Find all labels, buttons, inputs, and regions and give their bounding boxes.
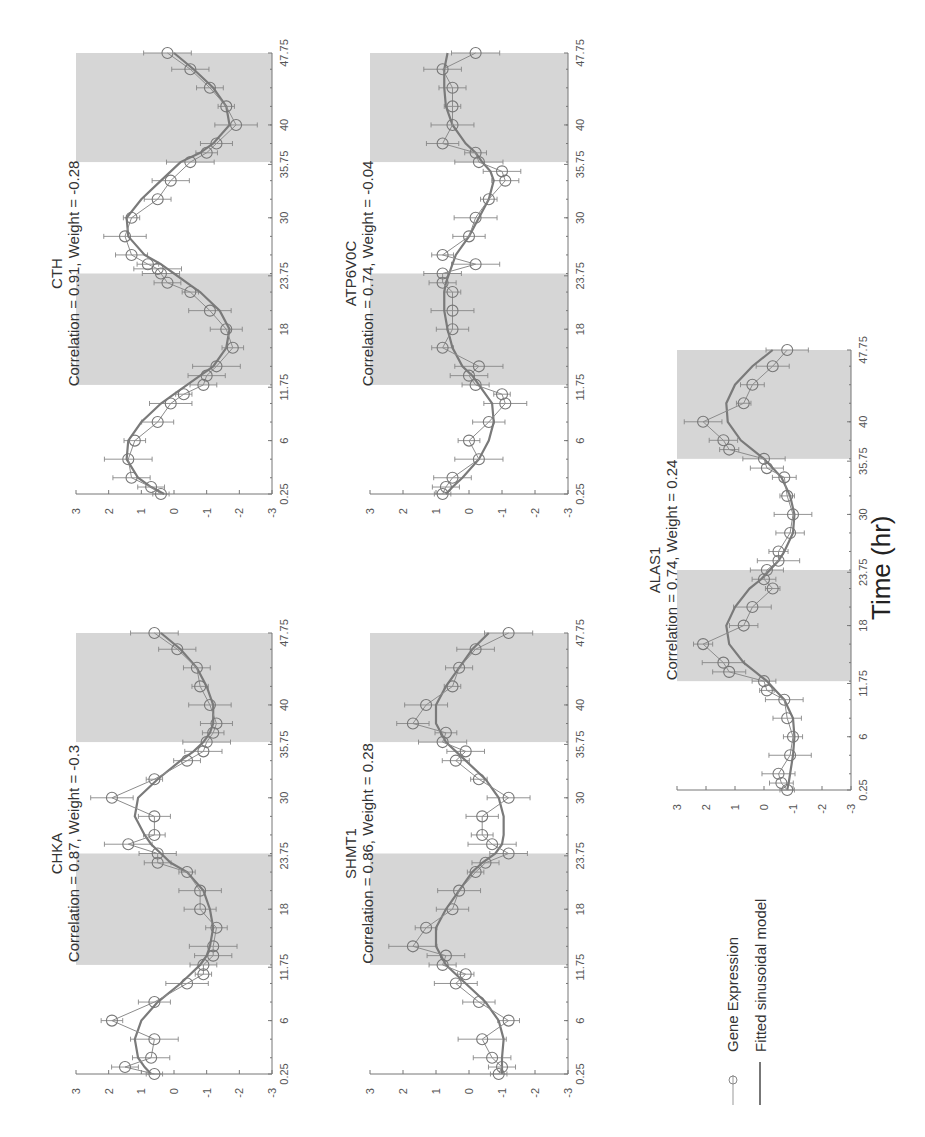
time-tick-label: 18 (857, 619, 869, 631)
value-tick-label: 1 (430, 1088, 442, 1094)
value-tick-label: -2 (816, 804, 828, 814)
dark-period-shade (76, 854, 272, 965)
x-axis-label: Time (hr) (866, 516, 896, 620)
panel-subtitle: Correlation = 0.74, Weight = 0.24 (663, 460, 680, 681)
value-tick-label: 1 (729, 804, 741, 810)
value-tick-label: 2 (103, 1088, 115, 1094)
value-tick-label: -3 (845, 804, 857, 814)
value-tick-label: 1 (430, 508, 442, 514)
value-tick-label: -1 (201, 1088, 213, 1098)
panel-shmt1: 3210-1-2-30.25611.751823.753035.754047.7… (342, 619, 586, 1098)
value-tick-label: 2 (700, 804, 712, 810)
time-tick-label: 40 (574, 119, 586, 131)
time-tick-label: 30 (574, 792, 586, 804)
panel-subtitle: Correlation = 0.87, Weight = -0.3 (65, 745, 82, 962)
value-tick-label: -1 (201, 508, 213, 518)
time-tick-label: 18 (278, 903, 290, 915)
panel-subtitle: Correlation = 0.91, Weight = -0.28 (65, 161, 82, 387)
panel-cth: 3210-1-2-30.25611.751823.753035.754047.7… (48, 39, 290, 518)
time-tick-label: 23.75 (278, 842, 290, 870)
value-tick-label: 3 (70, 1088, 82, 1094)
legend-fit-label: Fitted sinusoidal model (752, 899, 769, 1052)
panel-chka: 3210-1-2-30.25611.751823.753035.754047.7… (48, 619, 290, 1098)
time-tick-label: 23.75 (574, 262, 586, 290)
value-tick-label: 3 (671, 804, 683, 810)
time-tick-label: 35.75 (278, 731, 290, 759)
time-tick-label: 35.75 (857, 447, 869, 475)
time-tick-label: 11.75 (278, 954, 290, 981)
time-tick-label: 11.75 (574, 374, 586, 401)
value-tick-label: -2 (233, 508, 245, 518)
time-tick-label: 35.75 (574, 151, 586, 179)
legend-expression-label: Gene Expression (724, 937, 741, 1052)
legend-item-gene-expression: Gene Expression (724, 937, 741, 1105)
time-tick-label: 47.75 (574, 39, 586, 67)
time-tick-label: 11.75 (278, 374, 290, 401)
value-tick-label: 0 (168, 1088, 180, 1094)
time-tick-label: 40 (857, 416, 869, 428)
time-tick-label: 47.75 (857, 336, 869, 364)
time-tick-label: 35.75 (574, 731, 586, 759)
value-tick-label: 1 (135, 1088, 147, 1094)
value-tick-label: 0 (463, 1088, 475, 1094)
value-tick-label: 3 (364, 508, 376, 514)
value-tick-label: 3 (364, 1088, 376, 1094)
value-tick-label: -1 (496, 508, 508, 518)
value-tick-label: -1 (496, 1088, 508, 1098)
panel-title: CHKA (48, 833, 65, 875)
time-tick-label: 6 (857, 734, 869, 740)
time-tick-label: 40 (278, 699, 290, 711)
panel-atp6v0c: 3210-1-2-30.25611.751823.753035.754047.7… (342, 39, 586, 518)
time-tick-label: 6 (574, 1018, 586, 1024)
time-tick-label: 18 (574, 323, 586, 335)
value-tick-label: 0 (463, 508, 475, 514)
panel-subtitle: Correlation = 0.74, Weight = -0.04 (359, 161, 376, 387)
panel-title: ALAS1 (646, 547, 663, 594)
value-tick-label: 2 (397, 508, 409, 514)
time-tick-label: 40 (574, 699, 586, 711)
dark-period-shade (677, 570, 851, 681)
time-tick-label: 47.75 (574, 619, 586, 647)
time-tick-label: 11.75 (857, 670, 869, 697)
time-tick-label: 11.75 (574, 954, 586, 981)
value-tick-label: -3 (266, 508, 278, 518)
time-tick-label: 18 (278, 323, 290, 335)
time-tick-label: 35.75 (278, 151, 290, 179)
time-tick-label: 6 (278, 438, 290, 444)
value-tick-label: -1 (787, 804, 799, 814)
value-tick-label: -2 (233, 1088, 245, 1098)
value-tick-label: 3 (70, 508, 82, 514)
time-tick-label: 30 (278, 212, 290, 224)
legend: Gene Expression Fitted sinusoidal model (724, 899, 769, 1105)
time-tick-label: 18 (574, 903, 586, 915)
time-tick-label: 23.75 (574, 842, 586, 870)
legend-item-fitted-model: Fitted sinusoidal model (752, 899, 769, 1105)
panel-title: SHMT1 (342, 828, 359, 879)
value-tick-label: -2 (529, 1088, 541, 1098)
panel-title: CTH (48, 258, 65, 289)
value-tick-label: -3 (562, 508, 574, 518)
value-tick-label: -3 (562, 1088, 574, 1098)
value-tick-label: 1 (135, 508, 147, 514)
time-tick-label: 0.25 (574, 1063, 586, 1084)
panel-subtitle: Correlation = 0.86, Weight = 0.28 (359, 743, 376, 964)
time-tick-label: 47.75 (278, 39, 290, 67)
panel-alas1: 3210-1-2-30.25611.751823.753035.754047.7… (646, 336, 869, 814)
panel-title: ATP6V0C (342, 241, 359, 307)
time-tick-label: 0.25 (574, 483, 586, 504)
time-tick-label: 0.25 (278, 1063, 290, 1084)
value-tick-label: -3 (266, 1088, 278, 1098)
value-tick-label: 0 (168, 508, 180, 514)
value-tick-label: 0 (758, 804, 770, 810)
time-tick-label: 30 (574, 212, 586, 224)
time-tick-label: 0.25 (857, 779, 869, 800)
time-tick-label: 0.25 (278, 483, 290, 504)
time-tick-label: 23.75 (278, 262, 290, 290)
value-tick-label: 2 (397, 1088, 409, 1094)
value-tick-label: 2 (103, 508, 115, 514)
figure-canvas: 3210-1-2-30.25611.751823.753035.754047.7… (0, 0, 925, 1137)
time-tick-label: 6 (278, 1018, 290, 1024)
value-tick-label: -2 (529, 508, 541, 518)
time-tick-label: 30 (278, 792, 290, 804)
time-tick-label: 47.75 (278, 619, 290, 647)
